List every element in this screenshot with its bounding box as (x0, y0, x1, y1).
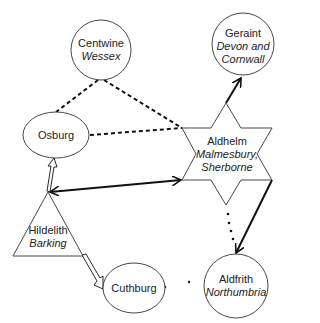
node-name: Hildelith (28, 224, 67, 237)
node-region: Malmesbury, (196, 148, 258, 161)
label-aldfrith: Aldfrith Northumbria (206, 273, 267, 299)
label-centwine: Centwine Wessex (78, 37, 124, 63)
node-name: Cuthburg (111, 282, 156, 295)
node-name: Osburg (38, 129, 74, 142)
edge-aldhelm-aldfrith (236, 180, 272, 253)
node-region: Cornwall (216, 53, 269, 66)
label-hildelith: Hildelith Barking (28, 224, 67, 250)
edge-aldhelm-geraint (226, 78, 241, 103)
node-name: Geraint (216, 27, 269, 40)
node-region: Barking (28, 237, 67, 250)
node-region: Devon and (216, 40, 269, 53)
node-name: Centwine (78, 37, 124, 50)
node-region: Sherborne (196, 161, 258, 174)
edge-hildelith-osburg (47, 158, 57, 192)
edge-hildelith-cuthburg (82, 254, 103, 289)
label-geraint: Geraint Devon and Cornwall (216, 27, 269, 66)
edge-hildelith-aldhelm (50, 180, 181, 192)
node-name: Aldfrith (206, 273, 267, 286)
label-aldhelm: Aldhelm Malmesbury, Sherborne (196, 135, 258, 174)
edge-cuthburg-aldfrith-dotted (164, 281, 190, 288)
node-region: Northumbria (206, 286, 267, 299)
edge-osburg-aldhelm (90, 128, 182, 135)
edge-centwine-osburg (56, 80, 98, 112)
edge-centwine-aldhelm (104, 80, 182, 128)
node-name: Aldhelm (196, 135, 258, 148)
label-cuthburg: Cuthburg (111, 282, 156, 295)
edge-aldhelm-aldfrith-dotted (227, 213, 235, 241)
label-osburg: Osburg (38, 129, 74, 142)
node-region: Wessex (78, 50, 124, 63)
